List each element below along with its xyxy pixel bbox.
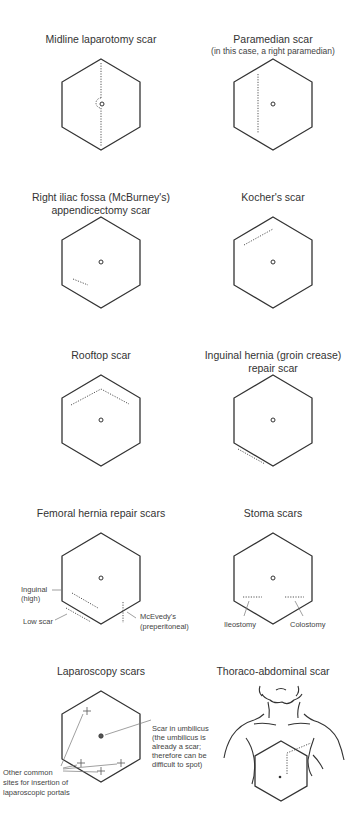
- paramedian-hexagon: [234, 59, 312, 150]
- port-site-icons: [77, 707, 125, 775]
- rooftop-hexagon: [62, 375, 140, 466]
- mcburney-hexagon: [62, 217, 140, 308]
- inguinal-hexagon: [234, 375, 312, 466]
- scar-diagrams: [0, 0, 361, 827]
- femoral-hexagon: [52, 533, 140, 624]
- stoma-hexagon: [234, 533, 312, 624]
- torso-outline: [224, 686, 344, 784]
- thoraco-hexagon: [255, 741, 311, 801]
- midline-hexagon: [62, 59, 140, 150]
- kocher-hexagon: [234, 217, 312, 308]
- umbilicus-icon: [100, 102, 104, 106]
- laparoscopy-hexagon: [61, 691, 151, 782]
